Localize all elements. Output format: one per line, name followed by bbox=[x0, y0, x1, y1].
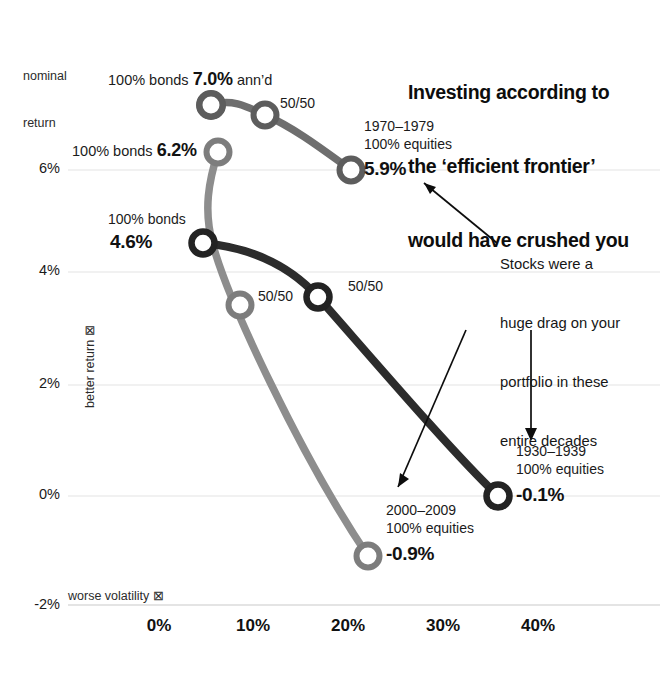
y-tick-4: 4% bbox=[18, 262, 60, 279]
label-1970-equities-value: 5.9% bbox=[364, 158, 406, 180]
series-2000-2009 bbox=[207, 141, 380, 568]
y-tick-neg2: -2% bbox=[18, 596, 60, 613]
label-1970-equities-decade: 1970–1979 bbox=[364, 118, 434, 135]
y-tick-0: 0% bbox=[18, 486, 60, 503]
x-tick-40: 40% bbox=[508, 616, 568, 636]
label-1930-bonds-text: 100% bonds bbox=[108, 211, 186, 228]
callout-stocks-drag: Stocks were a huge drag on your portfoli… bbox=[500, 216, 665, 491]
x-tick-20: 20% bbox=[318, 616, 378, 636]
y-axis-direction-label: better return ⊠ bbox=[83, 325, 98, 408]
x-axis-direction-label: worse volatility ⊠ bbox=[68, 589, 164, 604]
label-1930-5050: 50/50 bbox=[348, 278, 383, 295]
label-1970-bonds: 100% bonds 7.0% ann’d bbox=[108, 69, 272, 90]
x-tick-30: 30% bbox=[413, 616, 473, 636]
label-1970-5050: 50/50 bbox=[280, 95, 315, 112]
label-2000-5050: 50/50 bbox=[258, 288, 293, 305]
y-tick-2: 2% bbox=[18, 375, 60, 392]
y-axis-title: nominal return bbox=[23, 38, 67, 163]
x-tick-10: 10% bbox=[223, 616, 283, 636]
label-2000-equities-mix: 100% equities bbox=[386, 520, 474, 537]
label-1970-equities-mix: 100% equities bbox=[364, 136, 452, 153]
label-2000-equities-decade: 2000–2009 bbox=[386, 502, 456, 519]
arrow-to-2000-point bbox=[398, 330, 466, 487]
y-tick-6: 6% bbox=[18, 160, 60, 177]
chart-container: nominal return better return ⊠ worse vol… bbox=[0, 0, 670, 677]
x-tick-0: 0% bbox=[129, 616, 189, 636]
label-2000-equities-value: -0.9% bbox=[386, 543, 434, 565]
label-2000-bonds: 100% bonds 6.2% bbox=[72, 140, 197, 161]
label-1930-bonds-value: 4.6% bbox=[110, 231, 152, 253]
